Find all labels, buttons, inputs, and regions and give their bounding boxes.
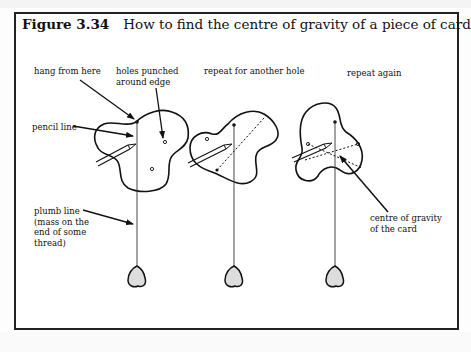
card-shape-3 (296, 103, 363, 181)
arrow-centre-of-gravity (340, 156, 388, 212)
pencil-icon-1 (96, 144, 136, 166)
arrow-holes-punched (156, 88, 163, 138)
plumb-bob-2 (225, 266, 243, 287)
plumb-bob-1 (128, 266, 146, 287)
arrow-pencil-line (73, 126, 133, 136)
panel-1 (73, 80, 188, 287)
hole-2a (205, 137, 208, 140)
plumb-bob-3 (326, 266, 344, 287)
panel-2 (188, 111, 278, 287)
hole-1b (150, 167, 153, 170)
page-bottom-strip (0, 332, 471, 352)
arrow-hang-from-here (80, 80, 134, 119)
card-shape-1 (95, 110, 189, 191)
panel-3 (292, 103, 388, 287)
hole-1a (163, 140, 166, 143)
previous-line-2 (217, 118, 264, 170)
pencil-icon-2 (188, 144, 232, 167)
diagram-canvas (0, 0, 471, 352)
arrow-plumb-line (83, 210, 133, 224)
